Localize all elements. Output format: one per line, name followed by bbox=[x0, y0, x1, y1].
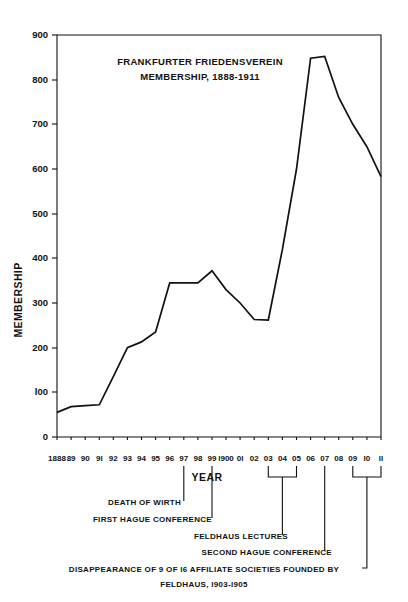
annotation-death-of-wirth: DEATH OF WIRTH bbox=[108, 498, 181, 507]
x-tick-label: 03 bbox=[264, 454, 273, 463]
y-tick-label: 700 bbox=[32, 118, 48, 129]
y-tick-label: 0 bbox=[43, 431, 48, 442]
annotation-disappearance-societies-line1: DISAPPEARANCE OF 9 OF l6 AFFILIATE SOCIE… bbox=[69, 565, 340, 574]
x-tick-label: 02 bbox=[250, 454, 259, 463]
y-tick-label: 900 bbox=[32, 29, 48, 40]
x-tick-label: 93 bbox=[123, 454, 132, 463]
x-tick-label: ll bbox=[379, 454, 383, 463]
chart-title-line1: FRANKFURTER FRIEDENSVEREIN bbox=[117, 56, 283, 67]
bracket-feldhaus-lectures bbox=[268, 466, 296, 477]
x-tick-label: 89 bbox=[67, 454, 76, 463]
x-tick-label: 92 bbox=[109, 454, 118, 463]
x-tick-label: 0l bbox=[237, 454, 244, 463]
x-tick-label: 90 bbox=[81, 454, 90, 463]
x-tick-label: 96 bbox=[165, 454, 174, 463]
x-tick-labels: 1888 89 90 9l 92 93 94 95 96 97 98 99 l9… bbox=[48, 454, 383, 463]
x-tick-label: 99 bbox=[208, 454, 217, 463]
annotation-disappearance-societies-line2: FELDHAUS, l903-l905 bbox=[160, 580, 248, 589]
x-tick-label: 04 bbox=[278, 454, 287, 463]
y-tick-label: 500 bbox=[32, 208, 48, 219]
x-tick-label: 9l bbox=[96, 454, 103, 463]
chart-figure: 0 l00 200 300 400 500 600 700 800 900 ME… bbox=[0, 0, 408, 602]
x-tick-label: 94 bbox=[137, 454, 146, 463]
plot-frame bbox=[57, 35, 381, 437]
y-tick-label: 400 bbox=[32, 252, 48, 263]
x-tick-label: 95 bbox=[151, 454, 160, 463]
y-tick-label: 300 bbox=[32, 297, 48, 308]
x-tick-label: 08 bbox=[334, 454, 343, 463]
x-axis-title: YEAR bbox=[192, 471, 223, 483]
y-tick-marks bbox=[52, 35, 57, 437]
y-tick-label: 200 bbox=[32, 342, 48, 353]
annotation-first-hague-conference: FIRST HAGUE CONFERENCE bbox=[93, 515, 212, 524]
leader-disappearance-societies bbox=[362, 477, 367, 568]
y-tick-labels: 0 l00 200 300 400 500 600 700 800 900 bbox=[32, 29, 48, 442]
x-tick-label: l900 bbox=[218, 454, 234, 463]
chart-title-line2: MEMBERSHIP, 1888-1911 bbox=[140, 71, 260, 82]
y-tick-label: l00 bbox=[35, 386, 48, 397]
membership-data-line bbox=[57, 56, 381, 412]
annotation-feldhaus-lectures: FELDHAUS LECTURES bbox=[194, 532, 288, 541]
x-tick-label: 07 bbox=[320, 454, 329, 463]
x-tick-label: l0 bbox=[364, 454, 371, 463]
y-tick-label: 800 bbox=[32, 74, 48, 85]
x-tick-label: 1888 bbox=[48, 454, 66, 463]
x-tick-label: 06 bbox=[306, 454, 315, 463]
bracket-disappearance-societies bbox=[353, 466, 381, 477]
x-tick-label: 98 bbox=[193, 454, 202, 463]
x-tick-label: 05 bbox=[292, 454, 301, 463]
x-tick-label: 97 bbox=[179, 454, 188, 463]
y-tick-label: 600 bbox=[32, 163, 48, 174]
x-tick-label: 09 bbox=[348, 454, 357, 463]
y-axis-title: MEMBERSHIP bbox=[12, 262, 24, 337]
chart-svg: 0 l00 200 300 400 500 600 700 800 900 ME… bbox=[0, 0, 408, 602]
annotation-second-hague-conference: SECOND HAGUE CONFERENCE bbox=[202, 548, 333, 557]
